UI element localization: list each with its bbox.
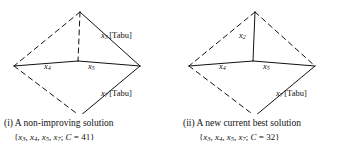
diagram-new-current-best-solution: x2 x4 x5 x7[Tabu] bbox=[175, 4, 349, 114]
set-terminator: ; bbox=[61, 132, 64, 142]
x7-tabu-label: x7[Tabu] bbox=[101, 89, 132, 98]
x5-sub: 5 bbox=[92, 65, 95, 71]
cost-value: 41 bbox=[81, 132, 90, 142]
x3-tabu-label: x3[Tabu] bbox=[101, 31, 132, 40]
x2-sub: 2 bbox=[243, 34, 246, 40]
x5-label: x5 bbox=[88, 62, 95, 71]
caption-label: (ii) bbox=[183, 118, 195, 128]
x4-label: x4 bbox=[44, 62, 51, 71]
set-terminator: ; bbox=[246, 132, 249, 142]
set-close: } bbox=[275, 132, 279, 142]
cost-equals: = bbox=[257, 132, 267, 142]
x7-tabu-tag: [Tabu] bbox=[108, 88, 132, 98]
caption-line-primary: (i) A non-improving solution bbox=[0, 118, 178, 129]
edge-top-left bbox=[14, 12, 80, 66]
x7-tabu-label: x7[Tabu] bbox=[276, 89, 307, 98]
x7-tabu-tag: [Tabu] bbox=[283, 88, 307, 98]
solution-set: {x3, x4, x5, x7; C = 41} bbox=[14, 132, 95, 142]
edge-center-vertical bbox=[253, 12, 255, 61]
panel-non-improving-solution: x3[Tabu] x4 x5 x7[Tabu] (i) A non-improv… bbox=[0, 0, 174, 160]
x4-sub: 4 bbox=[48, 65, 51, 71]
diagram-svg bbox=[0, 4, 174, 114]
caption-label: (i) bbox=[4, 118, 13, 128]
solution-set: {x3, x4, x5, x7; C = 32} bbox=[199, 132, 280, 142]
cost-equals: = bbox=[72, 132, 82, 142]
x4-label: x4 bbox=[219, 62, 226, 71]
caption-line-set: {x3, x4, x5, x7; C = 32} bbox=[175, 132, 349, 144]
set-close: } bbox=[90, 132, 94, 142]
caption-line-primary: (ii) A new current best solution bbox=[175, 118, 349, 129]
x5-sub: 5 bbox=[267, 65, 270, 71]
caption-line-set: {x3, x4, x5, x7; C = 41} bbox=[0, 132, 188, 144]
x3-tabu-tag: [Tabu] bbox=[108, 30, 132, 40]
x4-sub: 4 bbox=[223, 65, 226, 71]
caption-text: A non-improving solution bbox=[15, 118, 114, 128]
caption-text: A new current best solution bbox=[196, 118, 300, 128]
figure-container: x3[Tabu] x4 x5 x7[Tabu] (i) A non-improv… bbox=[0, 0, 349, 160]
diagram-non-improving-solution: x3[Tabu] x4 x5 x7[Tabu] bbox=[0, 4, 174, 114]
edge-bottom-left bbox=[14, 66, 80, 114]
cost-value: 32 bbox=[266, 132, 275, 142]
edge-top-right bbox=[255, 12, 315, 66]
diagram-svg bbox=[175, 4, 349, 114]
panel-new-current-best-solution: x2 x4 x5 x7[Tabu] (ii) A new current bes… bbox=[175, 0, 349, 160]
x5-label: x5 bbox=[263, 62, 270, 71]
edge-bottom-left bbox=[189, 66, 255, 114]
x2-label: x2 bbox=[239, 31, 246, 40]
edge-center-vertical bbox=[78, 12, 80, 61]
